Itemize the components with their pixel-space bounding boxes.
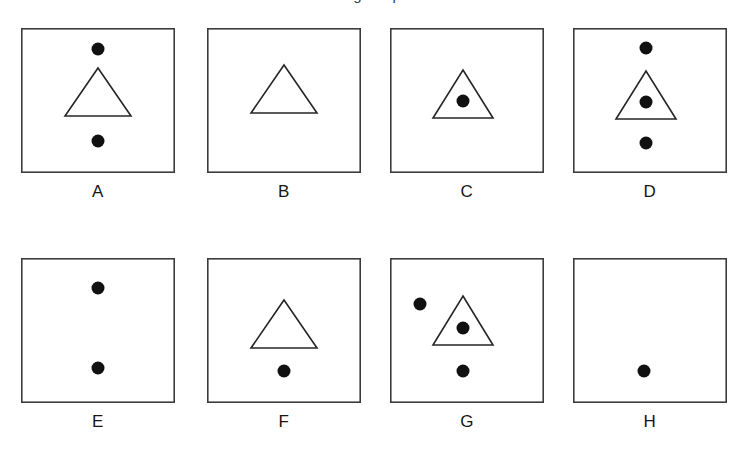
panel-c: C	[390, 28, 544, 203]
panel-e: E	[21, 258, 175, 433]
dot-below-triangle	[640, 137, 653, 150]
panel-label-h: H	[573, 411, 727, 433]
panel-a: A	[21, 28, 175, 203]
panel-label-g: G	[390, 411, 544, 433]
panel-box-h	[573, 258, 727, 403]
panel-box-e	[21, 258, 175, 403]
panel-label-d: D	[573, 181, 727, 203]
figure-root: Using Shapes ABCDEFGH	[0, 0, 740, 458]
panel-label-c: C	[390, 181, 544, 203]
panel-d: D	[573, 28, 727, 203]
panel-box-c	[390, 28, 544, 173]
dot-below-triangle	[457, 365, 470, 378]
panel-border	[574, 259, 726, 402]
panel-g: G	[390, 258, 544, 433]
dot-above-triangle	[640, 42, 653, 55]
dot-inside-triangle	[640, 96, 653, 109]
dot-upper	[92, 282, 105, 295]
dot-lower	[638, 365, 651, 378]
panel-label-f: F	[207, 411, 361, 433]
panel-border	[22, 259, 174, 402]
dot-inside-triangle	[457, 95, 470, 108]
panel-label-b: B	[207, 181, 361, 203]
panel-box-d	[573, 28, 727, 173]
panel-box-f	[207, 258, 361, 403]
dot-above-triangle	[92, 43, 105, 56]
panel-box-b	[207, 28, 361, 173]
panel-border	[208, 29, 360, 172]
panel-b: B	[207, 28, 361, 203]
panel-box-g	[390, 258, 544, 403]
panel-box-a	[21, 28, 175, 173]
dot-below-triangle	[92, 135, 105, 148]
dot-below-triangle	[278, 365, 291, 378]
dot-outside-left	[414, 298, 427, 311]
dot-inside-triangle	[457, 322, 470, 335]
panel-label-a: A	[21, 181, 175, 203]
panel-label-e: E	[21, 411, 175, 433]
panel-grid: ABCDEFGH	[0, 0, 740, 458]
panel-f: F	[207, 258, 361, 433]
panel-border	[208, 259, 360, 402]
dot-lower	[92, 362, 105, 375]
panel-h: H	[573, 258, 727, 433]
